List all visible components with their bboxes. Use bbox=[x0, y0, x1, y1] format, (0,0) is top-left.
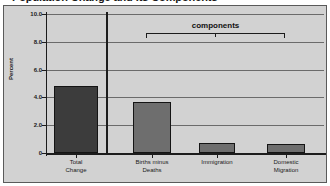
y-axis-tick-label: 2.0 bbox=[18, 122, 42, 128]
bar bbox=[267, 144, 305, 153]
bracket-label: components bbox=[146, 21, 285, 30]
x-axis-line bbox=[46, 153, 326, 155]
y-axis-tick-label-text: 10.0 bbox=[30, 11, 42, 17]
x-axis-category-label: Immigration bbox=[184, 159, 250, 167]
y-axis-tick-label: 10.0 bbox=[18, 11, 42, 17]
bracket-leg-left bbox=[146, 33, 147, 38]
page-title: Population Change and Its Components bbox=[12, 0, 217, 3]
bar bbox=[54, 86, 98, 153]
y-axis-tick-label: 4.0 bbox=[18, 94, 42, 100]
y-axis-tick-mark bbox=[42, 153, 46, 154]
total-components-separator bbox=[106, 12, 108, 155]
plot-area bbox=[46, 14, 324, 153]
x-axis-tick-mark bbox=[152, 155, 153, 158]
bar bbox=[133, 102, 171, 153]
y-axis-tick-label-text: 2.0 bbox=[34, 122, 42, 128]
y-axis-tick-label-text: 4.0 bbox=[34, 94, 42, 100]
bracket-leg-middle bbox=[215, 33, 216, 37]
y-axis-title: Percent bbox=[8, 46, 14, 92]
x-axis-category-label: Total Change bbox=[43, 159, 109, 174]
y-axis-tick-label: 6.0 bbox=[18, 67, 42, 73]
x-axis-tick-mark bbox=[76, 155, 77, 158]
y-axis-tick-label-text: 6.0 bbox=[34, 67, 42, 73]
y-axis-tick-label: 8.0 bbox=[18, 39, 42, 45]
bracket-leg-right bbox=[284, 33, 285, 38]
chart-frame: 10.08.06.04.02.00 Percent components Tot… bbox=[3, 5, 327, 183]
x-axis-category-label: Domestic Migration bbox=[253, 159, 319, 174]
x-axis-tick-mark bbox=[286, 155, 287, 158]
bar bbox=[199, 143, 235, 153]
y-axis-tick-label-text: 0 bbox=[39, 150, 42, 156]
x-axis-category-label: Births minus Deaths bbox=[119, 159, 185, 174]
chart-screenshot: Population Change and Its Components 10.… bbox=[0, 0, 330, 186]
x-axis-tick-mark bbox=[217, 155, 218, 158]
y-axis-tick-label-text: 8.0 bbox=[34, 39, 42, 45]
y-axis-tick-label: 0 bbox=[18, 150, 42, 156]
